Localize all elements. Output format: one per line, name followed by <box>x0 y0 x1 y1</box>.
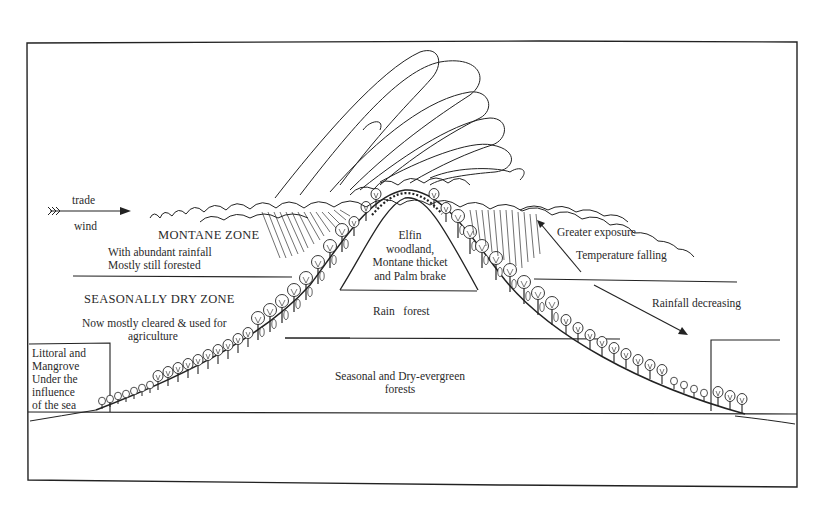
dry-zone-line1: Now mostly cleared & used for <box>82 317 227 330</box>
rainforest-base <box>285 338 620 339</box>
dry-zone-line2: agriculture <box>128 330 178 343</box>
rainfall-arrow-icon <box>594 285 688 335</box>
montane-zone-title: MONTANE ZONE <box>158 229 260 243</box>
temperature-label: Temperature falling <box>576 249 667 262</box>
lowland-forest-label: Seasonal and Dry-evergreen forests <box>320 370 480 396</box>
montane-zone-line2: Mostly still forested <box>108 259 201 272</box>
summit-band-label: Elfin woodland, Montane thicket and Palm… <box>368 229 452 283</box>
dry-zone-title: SEASONALLY DRY ZONE <box>84 293 235 307</box>
exposure-label: Greater exposure <box>557 226 636 239</box>
montane-boundary-left <box>73 276 292 277</box>
trade-wind-arrow-icon <box>48 207 131 215</box>
montane-zone-line1: With abundant rainfall <box>108 246 212 259</box>
cloud-plume <box>275 51 524 198</box>
littoral-label: Littoral and Mangrove Under the influenc… <box>32 347 86 412</box>
ground-line <box>28 412 797 414</box>
wind-label-bottom: wind <box>74 220 97 233</box>
rainfall-label: Rainfall decreasing <box>652 297 741 310</box>
wind-label-top: trade <box>72 194 95 207</box>
summit-band-line <box>340 290 477 291</box>
shore-right <box>735 416 795 424</box>
rain-forest-label: Rain forest <box>373 305 430 318</box>
montane-boundary-right <box>534 279 737 282</box>
